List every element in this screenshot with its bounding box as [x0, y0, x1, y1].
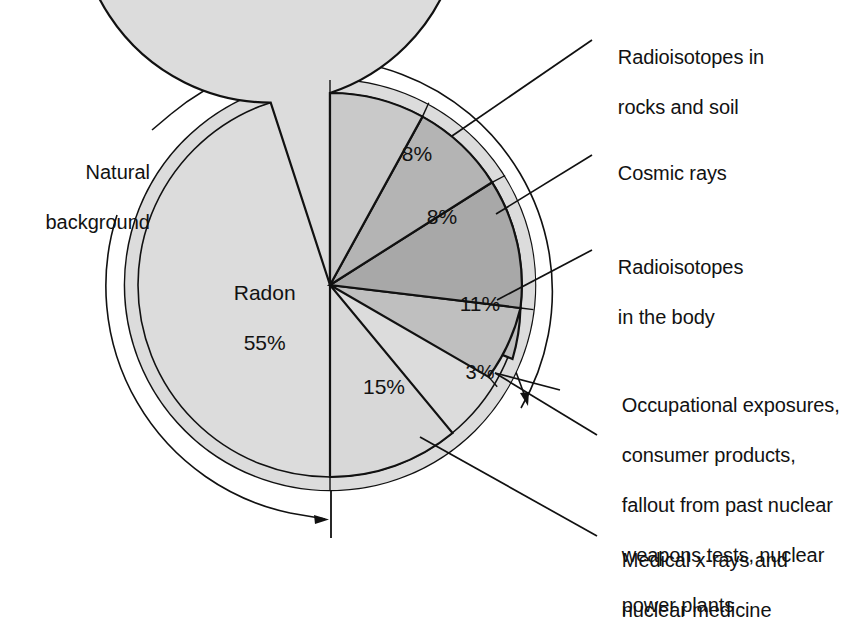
- callout-label-in-the-body: Radioisotopes in the body: [596, 230, 743, 355]
- callout-label-occupational-line2: consumer products,: [622, 444, 796, 466]
- callout-label-occupational-line3: fallout from past nuclear: [622, 494, 833, 516]
- slice-percent-cosmic-rays: 8%: [417, 205, 467, 229]
- slice-label-radon: Radon 55%: [198, 255, 308, 380]
- callout-label-medical-xrays: Medical x-rays and nuclear medicine: [600, 523, 788, 621]
- callout-label-cosmic-rays-line1: Cosmic rays: [618, 162, 727, 184]
- callout-label-medical-xrays-line2: nuclear medicine: [622, 599, 772, 621]
- callout-label-rocks-and-soil-line2: rocks and soil: [618, 96, 739, 118]
- leader-line-cosmic-rays: [496, 155, 592, 214]
- leader-line-medical-xrays: [420, 437, 597, 536]
- bracket-label-natural-background: Natural background: [20, 135, 150, 260]
- bracket-label-line2: background: [45, 211, 150, 233]
- bracket-upper-arrow-head: [520, 392, 529, 406]
- bracket-arc-upper-tail: [152, 114, 171, 130]
- callout-label-in-the-body-line1: Radioisotopes: [618, 256, 743, 278]
- slice-label-radon-percent: 55%: [244, 331, 286, 354]
- callout-label-cosmic-rays: Cosmic rays: [596, 136, 727, 211]
- leader-line-rocks-and-soil: [452, 40, 592, 136]
- callout-label-in-the-body-line2: in the body: [618, 306, 715, 328]
- slice-percent-medical-xrays: 15%: [358, 375, 410, 399]
- bracket-arrow-head: [314, 515, 329, 524]
- leader-line-occupational: [495, 373, 597, 435]
- callout-label-rocks-and-soil: Radioisotopes in rocks and soil: [596, 20, 764, 145]
- slice-label-radon-name: Radon: [234, 281, 296, 304]
- slice-percent-occupational: 3%: [457, 360, 503, 384]
- callout-label-rocks-and-soil-line1: Radioisotopes in: [618, 46, 764, 68]
- callout-label-medical-xrays-line1: Medical x-rays and: [622, 549, 788, 571]
- slice-percent-rocks-and-soil: 8%: [392, 142, 442, 166]
- bracket-label-line1: Natural: [86, 161, 150, 183]
- callout-label-occupational-line1: Occupational exposures,: [622, 394, 840, 416]
- slice-percent-in-the-body: 11%: [452, 292, 508, 316]
